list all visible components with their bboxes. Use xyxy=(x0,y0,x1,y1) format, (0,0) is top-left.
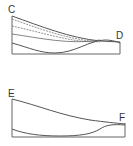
section-cd-lower-boundary xyxy=(12,40,120,53)
section-ef-top-surface xyxy=(12,99,125,124)
section-cd: C D xyxy=(8,4,123,54)
label-d: D xyxy=(116,30,123,41)
diagram-canvas: C D E F xyxy=(0,0,133,146)
section-ef-frame xyxy=(12,99,125,137)
section-cd-line-3 xyxy=(12,34,100,42)
section-ef-lower-boundary xyxy=(12,125,125,136)
section-cd-dashed-line-1 xyxy=(12,19,100,42)
label-c: C xyxy=(8,4,15,15)
section-ef: E F xyxy=(8,88,125,137)
label-f: F xyxy=(119,112,125,123)
section-cd-top-surface xyxy=(12,16,120,42)
label-e: E xyxy=(8,88,15,99)
